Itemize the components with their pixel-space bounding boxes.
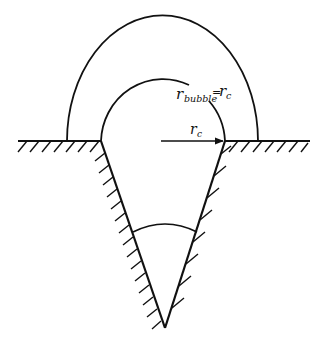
inner-bubble-arc-right xyxy=(209,101,225,141)
svg-text:c: c xyxy=(226,90,232,101)
bubble-cavity-diagram: r bubble = r c r c xyxy=(0,0,324,349)
svg-text:r: r xyxy=(176,85,184,103)
cavity-wall-right xyxy=(165,141,225,328)
cavity-wall-left xyxy=(101,141,165,328)
cavity-radius-label: r c xyxy=(190,121,202,139)
cavity-hatching-right xyxy=(172,146,231,308)
surface-hatching-right xyxy=(229,141,308,152)
surface-hatching-left xyxy=(18,141,99,152)
svg-text:c: c xyxy=(197,129,202,139)
bubble-radius-label: r bubble = r c xyxy=(176,82,232,104)
cone-angle-arc xyxy=(133,224,197,232)
cavity-hatching-left xyxy=(95,153,161,329)
